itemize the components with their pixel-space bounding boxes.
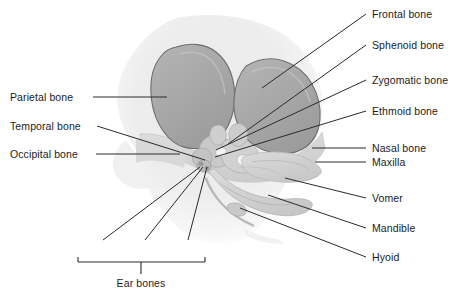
label-mandible: Mandible: [372, 222, 415, 234]
leader-incus: [145, 167, 203, 240]
label-frontal: Frontal bone: [372, 8, 432, 20]
leader-frontal: [262, 14, 366, 88]
leader-temporal: [97, 126, 205, 160]
label-sphenoid: Sphenoid bone: [372, 39, 444, 51]
label-occipital: Occipital bone: [10, 148, 78, 160]
leader-malleus: [188, 167, 207, 240]
label-nasal: Nasal bone: [372, 142, 426, 154]
leader-lines: [93, 14, 366, 257]
label-parietal: Parietal bone: [10, 91, 73, 103]
label-ethmoid: Ethmoid bone: [372, 105, 438, 117]
leader-zygomatic: [216, 80, 366, 150]
label-vomer: Vomer: [372, 192, 403, 204]
leader-sphenoid: [228, 45, 366, 144]
leader-ethmoid: [215, 111, 366, 157]
label-zygomatic: Zygomatic bone: [372, 74, 448, 86]
label-temporal: Temporal bone: [10, 120, 81, 132]
leader-stapes: [103, 167, 200, 240]
leader-vomer: [285, 178, 366, 198]
ear-bones-group-label: Ear bones: [117, 277, 166, 289]
leader-hyoid: [240, 208, 366, 257]
label-maxilla: Maxilla: [372, 156, 405, 168]
leader-mandible: [268, 195, 366, 228]
label-hyoid: Hyoid: [372, 251, 399, 263]
skull-anatomy-figure: Parietal boneTemporal boneOccipital bone…: [0, 0, 450, 293]
ear-bones-bracket: [78, 257, 205, 274]
